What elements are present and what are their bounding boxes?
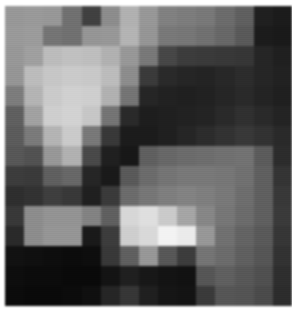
heatmap-cell [101, 126, 120, 146]
heatmap-cell [101, 206, 120, 226]
heatmap-cell [273, 286, 292, 306]
heatmap-cell [120, 146, 139, 166]
heatmap-cell [24, 166, 43, 186]
heatmap-cell [235, 26, 254, 46]
heatmap-cell [5, 166, 24, 186]
heatmap-cell [5, 86, 24, 106]
heatmap-cell [235, 246, 254, 266]
heatmap-cell [273, 226, 292, 246]
heatmap-cell [254, 206, 273, 226]
heatmap-cell [62, 266, 81, 286]
heatmap-cell [177, 26, 196, 46]
heatmap-cell [43, 266, 62, 286]
heatmap-cell [215, 246, 234, 266]
heatmap-cell [120, 286, 139, 306]
heatmap-cell [235, 86, 254, 106]
heatmap-cell [177, 86, 196, 106]
heatmap-cell [254, 46, 273, 66]
heatmap-cell [62, 6, 81, 26]
heatmap-cell [101, 66, 120, 86]
heatmap-cell [196, 166, 215, 186]
heatmap-cell [254, 26, 273, 46]
heatmap-cell [82, 46, 101, 66]
heatmap-cell [62, 246, 81, 266]
heatmap-cell [139, 206, 158, 226]
heatmap-cell [62, 166, 81, 186]
heatmap-cell [177, 166, 196, 186]
heatmap-cell [120, 186, 139, 206]
heatmap-cell [82, 166, 101, 186]
heatmap-cell [254, 6, 273, 26]
heatmap-cell [24, 286, 43, 306]
heatmap-cell [235, 66, 254, 86]
heatmap-cell [158, 186, 177, 206]
heatmap-cell [5, 46, 24, 66]
heatmap-cell [273, 6, 292, 26]
heatmap-cell [5, 286, 24, 306]
heatmap-cell [235, 6, 254, 26]
heatmap-cell [43, 226, 62, 246]
heatmap-cell [62, 66, 81, 86]
heatmap-cell [5, 226, 24, 246]
heatmap-cell [101, 246, 120, 266]
heatmap-cell [139, 86, 158, 106]
heatmap-cell [101, 286, 120, 306]
heatmap-cell [158, 246, 177, 266]
heatmap-cell [235, 226, 254, 246]
heatmap-cell [158, 86, 177, 106]
heatmap-cell [196, 26, 215, 46]
heatmap-cell [120, 26, 139, 46]
heatmap-cell [273, 26, 292, 46]
heatmap-cell [273, 106, 292, 126]
heatmap-cell [158, 286, 177, 306]
heatmap-cell [196, 206, 215, 226]
heatmap-cell [215, 106, 234, 126]
heatmap-cell [139, 166, 158, 186]
heatmap-cell [215, 26, 234, 46]
heatmap-cell [273, 246, 292, 266]
heatmap-cell [158, 226, 177, 246]
heatmap-cell [101, 226, 120, 246]
heatmap-cell [139, 26, 158, 46]
heatmap-cell [273, 186, 292, 206]
heatmap-cell [177, 206, 196, 226]
heatmap-cell [139, 66, 158, 86]
heatmap-cell [43, 6, 62, 26]
heatmap-cell [82, 26, 101, 46]
heatmap-cell [158, 106, 177, 126]
heatmap-cell [5, 266, 24, 286]
heatmap-cell [196, 186, 215, 206]
heatmap-cell [177, 186, 196, 206]
heatmap-cell [196, 146, 215, 166]
heatmap-cell [139, 226, 158, 246]
heatmap-cell [139, 286, 158, 306]
heatmap-cell [5, 186, 24, 206]
heatmap-cell [82, 146, 101, 166]
heatmap-cell [235, 126, 254, 146]
heatmap-grid [5, 6, 292, 306]
heatmap-cell [158, 66, 177, 86]
heatmap-cell [82, 206, 101, 226]
heatmap-cell [215, 186, 234, 206]
heatmap-cell [235, 206, 254, 226]
heatmap-cell [120, 126, 139, 146]
heatmap-cell [158, 166, 177, 186]
heatmap-cell [43, 46, 62, 66]
heatmap-cell [254, 246, 273, 266]
heatmap-cell [62, 126, 81, 146]
heatmap-cell [43, 206, 62, 226]
heatmap-cell [101, 186, 120, 206]
heatmap-cell [158, 46, 177, 66]
heatmap-cell [5, 126, 24, 146]
heatmap-cell [62, 26, 81, 46]
heatmap-cell [196, 46, 215, 66]
heatmap-cell [254, 266, 273, 286]
heatmap-cell [120, 166, 139, 186]
heatmap-cell [101, 166, 120, 186]
heatmap-cell [196, 126, 215, 146]
heatmap-cell [43, 246, 62, 266]
heatmap-cell [62, 226, 81, 246]
heatmap-cell [177, 246, 196, 266]
heatmap-cell [139, 246, 158, 266]
heatmap-cell [24, 146, 43, 166]
